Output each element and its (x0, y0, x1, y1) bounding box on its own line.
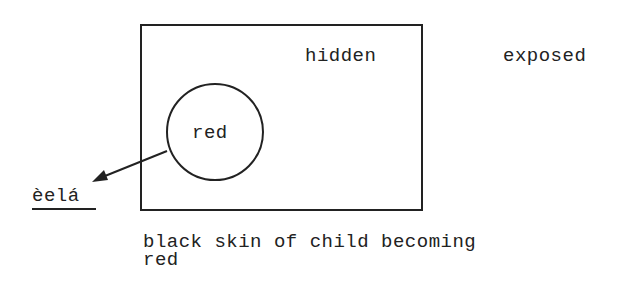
hidden-region-box (141, 25, 422, 210)
arrow-line (100, 151, 167, 178)
arrowhead-icon (92, 170, 108, 182)
caption-line-1: black skin of child becoming (143, 232, 476, 252)
hidden-label: hidden (305, 46, 376, 66)
eela-label: èelá (32, 186, 80, 206)
caption-line-2: red (143, 250, 179, 270)
red-circle-label: red (192, 123, 228, 143)
exposed-label: exposed (503, 46, 586, 66)
